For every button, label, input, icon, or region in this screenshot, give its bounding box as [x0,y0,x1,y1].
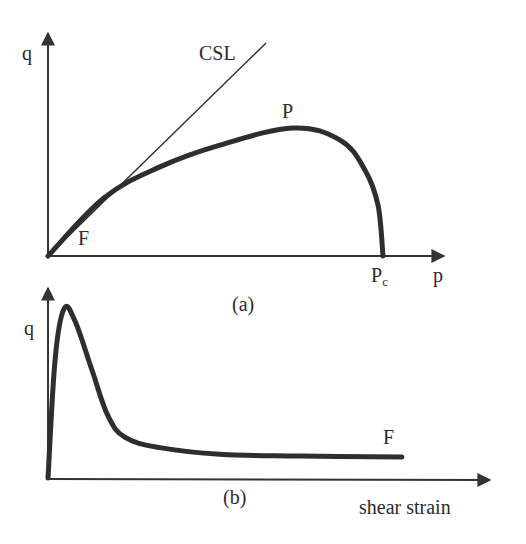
panel-a-failure-label: F [78,227,89,249]
pc-label: Pc [371,264,388,289]
panel-b: q F (b) shear strain [24,288,490,518]
panel-b-y-axis-label: q [24,317,34,340]
csl-label: CSL [199,42,236,64]
panel-a-caption: (a) [232,293,254,316]
csl-line [48,43,266,256]
panel-a-x-axis-label: p [433,264,443,287]
soil-stress-path-figure: q CSL P F Pc p (a) q F (b) shear strain [0,0,526,544]
panel-b-failure-label: F [383,426,394,448]
panel-a-y-axis-label: q [22,42,32,65]
peak-label: P [282,100,293,122]
panel-a: q CSL P F Pc p (a) [22,33,444,316]
panel-b-x-axis [48,479,490,480]
panel-b-x-axis-label: shear strain [359,496,451,518]
panel-b-caption: (b) [223,486,246,509]
strain-softening-curve [48,306,402,478]
stress-path-curve [48,128,383,256]
